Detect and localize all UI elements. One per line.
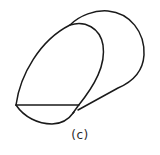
outer-cap-arc (70, 11, 144, 110)
bottom-arc (16, 105, 74, 124)
inner-ellipse-arc (16, 24, 103, 113)
figure-caption: (c) (0, 128, 160, 142)
cylinder-section-figure: (c) (0, 0, 160, 155)
